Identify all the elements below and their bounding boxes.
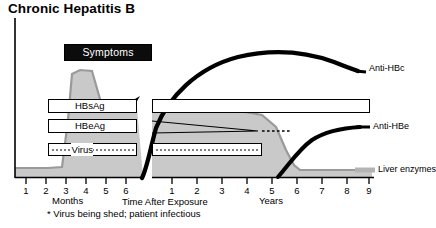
year-tick-6: 6 xyxy=(290,185,304,196)
virus-box-left: Virus xyxy=(48,143,137,156)
years-axis-label: Years xyxy=(259,195,283,206)
anti-hbe-series-label: Anti-HBe xyxy=(373,121,409,131)
year-tick-8: 8 xyxy=(340,185,354,196)
year-tick-3: 3 xyxy=(215,185,229,196)
symptoms-band: Symptoms xyxy=(64,44,152,61)
month-tick-6: 6 xyxy=(119,185,133,196)
hbsag-label: HBsAg xyxy=(75,100,105,112)
symptoms-label: Symptoms xyxy=(65,46,151,58)
year-tick-4: 4 xyxy=(240,185,254,196)
months-axis-label: Months xyxy=(52,195,83,206)
hbeag-label: HBeAg xyxy=(75,120,105,132)
month-tick-5: 5 xyxy=(99,185,113,196)
anti-hbc-leader xyxy=(356,71,366,72)
hbsag-box-left: HBsAg xyxy=(48,99,137,113)
footnote: * Virus being shed; patient infectious xyxy=(47,208,201,219)
month-tick-2: 2 xyxy=(39,185,53,196)
x-axis-caption: Time After Exposure xyxy=(122,196,208,207)
year-tick-1: 1 xyxy=(165,185,179,196)
year-tick-9: 9 xyxy=(362,185,376,196)
year-tick-2: 2 xyxy=(190,185,204,196)
month-tick-1: 1 xyxy=(19,185,33,196)
hbeag-box-left: HBeAg xyxy=(48,119,137,133)
virus-dots-right xyxy=(155,148,259,151)
virus-label: Virus xyxy=(71,143,93,156)
hbsag-box-right xyxy=(152,99,370,113)
virus-box-right xyxy=(152,143,262,156)
anti-hbc-series-label: Anti-HBc xyxy=(369,63,405,73)
liver-enzymes-series-label: Liver enzymes xyxy=(378,164,436,174)
year-tick-7: 7 xyxy=(315,185,329,196)
